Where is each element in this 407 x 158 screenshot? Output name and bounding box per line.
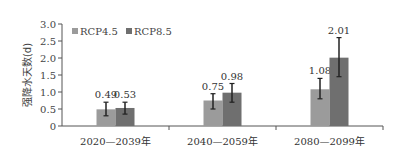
x-category-label: 2020—2039年 [80, 135, 151, 147]
value-label: 0.75 [202, 81, 224, 92]
legend-swatch [126, 28, 132, 34]
x-category-label: 2040—2059年 [187, 135, 258, 147]
legend-label: RCP8.5 [134, 26, 172, 37]
value-label: 2.01 [328, 25, 350, 36]
legend-swatch [72, 28, 78, 34]
value-label: 1.08 [309, 65, 331, 76]
y-tick-label: 1.5 [40, 70, 56, 81]
y-tick-label: 3.0 [40, 19, 56, 30]
legend: RCP4.5RCP8.5 [72, 26, 172, 37]
y-axis-title: 强降水天数(d) [21, 43, 33, 107]
x-category-label: 2080—2099年 [294, 135, 365, 147]
y-tick-label: 1.0 [40, 87, 56, 98]
y-tick-label: 2.0 [40, 53, 56, 64]
bar-chart: 强降水天数(d) 00.51.01.52.02.53.02020—2039年20… [0, 0, 407, 158]
value-label: 0.98 [221, 71, 243, 82]
value-label: 0.53 [114, 89, 136, 100]
y-axis-label: 强降水天数(d) [21, 43, 33, 107]
legend-label: RCP4.5 [80, 26, 118, 37]
y-tick-label: 0.5 [40, 104, 56, 115]
bars: 0.490.530.750.981.082.01 [95, 25, 350, 126]
y-tick-label: 2.5 [40, 36, 56, 47]
y-tick-label: 0 [50, 121, 56, 132]
